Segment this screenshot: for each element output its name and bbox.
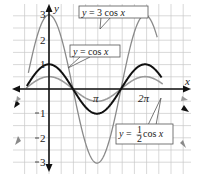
box-text-eq: = <box>123 128 132 139</box>
y-tick-2: 2 <box>40 34 46 46</box>
y-tick-neg2: 2 <box>40 132 46 144</box>
x-tick-pi: π <box>93 92 99 104</box>
arrow-icon <box>181 96 188 101</box>
svg-text:y =: y = <box>118 128 132 139</box>
label-box-3-cos-x: y = 3 cos x <box>79 6 148 29</box>
y-tick-3: 3 <box>40 8 46 20</box>
x-axis-label: x <box>184 75 190 87</box>
box-text-eq: = cos <box>77 46 103 57</box>
arrow-icon <box>15 136 21 145</box>
x-axis-left-arrow-icon <box>12 86 20 93</box>
y-axis-arrow-icon <box>46 4 53 12</box>
box-text-eq: = 3 cos <box>86 7 120 18</box>
svg-text:y = cos x: y = cos x <box>72 46 109 57</box>
y-tick-1: 1 <box>40 58 46 70</box>
label-box-half-cos-x: y = 1 2 cos x <box>116 98 173 144</box>
box-text-x: x <box>103 46 109 57</box>
x-tick-2pi: 2π <box>138 92 150 104</box>
box-text-x: x <box>119 7 125 18</box>
cosine-graph: y x 3 2 1 1 2 3 π 2π y = 3 cos x y = cos… <box>0 0 203 182</box>
box-text-cos: cos <box>143 128 159 139</box>
y-tick-neg3: 3 <box>40 156 46 168</box>
svg-text:cos x: cos x <box>143 128 164 139</box>
y-tick-neg1: 1 <box>40 107 46 119</box>
arrow-icon <box>181 105 189 112</box>
box-text-x: x <box>158 128 164 139</box>
y-axis-down-arrow-icon <box>46 164 53 172</box>
fraction-denominator: 2 <box>137 133 142 144</box>
y-axis-label: y <box>53 2 59 14</box>
svg-text:y = 3 cos x: y = 3 cos x <box>81 7 125 18</box>
